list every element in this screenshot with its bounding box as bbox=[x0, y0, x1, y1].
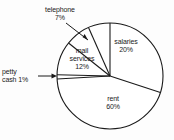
slice-label-telephone-percent: 7% bbox=[28, 14, 92, 22]
slice-label-salaries: salaries 20% bbox=[104, 38, 148, 54]
petty-cash-leader-arrowhead bbox=[52, 74, 58, 79]
slice-label-rent: rent 60% bbox=[92, 95, 134, 111]
slice-label-mail-services-name: mail bbox=[76, 47, 88, 54]
slice-label-rent-percent: 60% bbox=[92, 103, 134, 111]
slice-label-telephone: telephone 7% bbox=[28, 6, 92, 22]
slice-label-salaries-percent: 20% bbox=[104, 46, 148, 54]
slice-label-mail-services-percent: 12% bbox=[60, 63, 104, 71]
slice-label-salaries-name: salaries bbox=[114, 38, 137, 45]
pie-chart-figure: telephone 7% salaries 20% mail services … bbox=[0, 0, 174, 140]
slice-label-petty-cash-name2: cash 1% bbox=[2, 76, 42, 84]
slice-label-telephone-name: telephone bbox=[45, 6, 75, 13]
slice-label-rent-name: rent bbox=[107, 95, 119, 102]
slice-label-petty-cash-name: petty bbox=[2, 68, 17, 75]
slice-label-mail-services-name2: services bbox=[60, 55, 104, 63]
slice-label-petty-cash: petty cash 1% bbox=[2, 68, 42, 84]
slice-label-mail-services: mail services 12% bbox=[60, 47, 104, 71]
